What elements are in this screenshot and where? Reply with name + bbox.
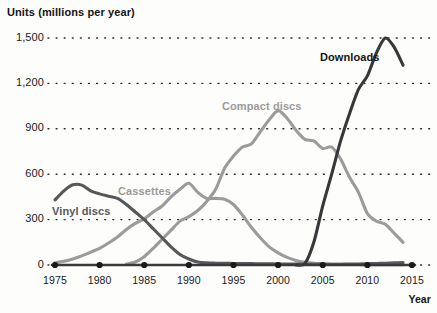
series-downloads	[296, 38, 403, 265]
series-label-compact-discs: Compact discs	[222, 100, 302, 112]
x-axis-tick-1985: 1985	[124, 274, 164, 286]
y-axis-tick-300: 300	[2, 212, 44, 224]
series-label-vinyl-discs: Vinyl discs	[52, 205, 110, 217]
y-axis-tick-1500: 1,500	[2, 31, 44, 43]
series-vinyl-discs	[55, 184, 403, 264]
x-axis-tick-2005: 2005	[303, 274, 343, 286]
chart-plot-area	[0, 0, 437, 313]
baseline-marker-dot	[186, 262, 192, 268]
x-axis-label: Year	[408, 293, 431, 305]
series-label-downloads: Downloads	[320, 51, 380, 63]
x-axis-tick-1975: 1975	[35, 274, 75, 286]
baseline-marker-dot	[409, 262, 415, 268]
baseline-marker-dot	[97, 262, 103, 268]
x-axis-tick-1995: 1995	[214, 274, 254, 286]
x-axis-tick-2000: 2000	[258, 274, 298, 286]
baseline-marker-dot	[230, 262, 236, 268]
y-axis-tick-1200: 1,200	[2, 76, 44, 88]
y-axis-tick-600: 600	[2, 167, 44, 179]
series-label-cassettes: Cassettes	[118, 185, 171, 197]
baseline-marker-dot	[52, 262, 58, 268]
x-axis-tick-1990: 1990	[169, 274, 209, 286]
baseline-marker-dot	[364, 262, 370, 268]
baseline-marker-dot	[275, 262, 281, 268]
x-axis-tick-2010: 2010	[347, 274, 387, 286]
y-axis-tick-0: 0	[2, 258, 44, 270]
y-axis-tick-900: 900	[2, 121, 44, 133]
chart-container: Units (millions per year) 03006009001,20…	[0, 0, 437, 313]
x-axis-tick-1980: 1980	[80, 274, 120, 286]
x-axis-tick-2015: 2015	[392, 274, 432, 286]
baseline-marker-dot	[320, 262, 326, 268]
gridlines	[48, 38, 433, 265]
baseline-marker-dot	[141, 262, 147, 268]
